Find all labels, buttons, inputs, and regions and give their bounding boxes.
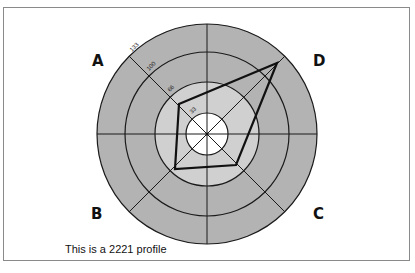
center-point bbox=[206, 133, 209, 136]
radar-chart: 133 100 66 33 A D B C bbox=[0, 0, 415, 273]
quadrant-label-a: A bbox=[92, 52, 104, 70]
quadrant-label-c: C bbox=[313, 205, 324, 223]
quadrant-label-d: D bbox=[313, 52, 325, 70]
chart-caption: This is a 2221 profile bbox=[65, 243, 167, 255]
quadrant-label-b: B bbox=[91, 205, 102, 223]
